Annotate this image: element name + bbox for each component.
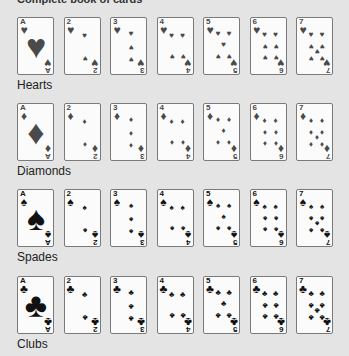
spade-icon: ♠ (114, 196, 120, 208)
spade-icon: ♠ (309, 214, 313, 222)
heart-icon: ♥ (91, 57, 98, 69)
spade-icon: ♠ (129, 227, 133, 235)
heart-icon: ♥ (227, 52, 232, 60)
card-5-of-diamonds: 55♦♦♦♦♦♦♦ (203, 103, 240, 161)
heart-icon: ♥ (227, 30, 232, 38)
diamond-icon: ♦ (21, 110, 27, 122)
heart-icon: ♥ (82, 32, 87, 40)
diamond-icon: ♦ (277, 143, 283, 155)
card-a-of-clubs: AA♣♣♣ (17, 276, 54, 334)
spade-icon: ♠ (169, 204, 173, 212)
spade-icon: ♠ (82, 204, 86, 212)
suit-label: Hearts (17, 78, 52, 92)
card-3-of-diamonds: 33♦♦♦♦♦ (110, 103, 147, 161)
card-4-of-hearts: 44♥♥♥♥♥♥ (157, 17, 194, 75)
spade-icon: ♠ (309, 203, 313, 211)
heart-icon: ♥ (82, 54, 87, 62)
spade-icon: ♠ (320, 214, 324, 222)
diamond-icon: ♦ (273, 128, 277, 136)
card-a-of-hearts: AA♥♥♥ (17, 17, 54, 75)
spade-icon: ♠ (169, 224, 173, 232)
card-7-of-hearts: 77♥♥♥♥♥♥♥♥♥ (296, 17, 333, 75)
diamond-icon: ♦ (324, 143, 330, 155)
diamond-icon: ♦ (27, 115, 44, 149)
club-icon: ♣ (299, 283, 307, 295)
heart-icon: ♥ (67, 24, 74, 36)
spade-icon: ♠ (324, 229, 330, 241)
club-icon: ♣ (113, 283, 121, 295)
spade-icon: ♠ (314, 219, 318, 227)
heart-icon: ♥ (216, 52, 221, 60)
heart-icon: ♥ (230, 57, 237, 69)
spade-icon: ♠ (231, 229, 237, 241)
heart-icon: ♥ (320, 31, 325, 39)
spade-icon: ♠ (27, 201, 45, 235)
club-icon: ♣ (128, 314, 133, 322)
diamond-icon: ♦ (300, 110, 306, 122)
suit-label: Clubs (17, 337, 48, 351)
heart-icon: ♥ (309, 54, 314, 62)
heart-icon: ♥ (129, 55, 134, 63)
spade-icon: ♠ (180, 204, 184, 212)
diamond-icon: ♦ (227, 116, 231, 124)
spade-icon: ♠ (129, 215, 133, 223)
card-2-of-hearts: 22♥♥♥♥ (64, 17, 101, 75)
heart-icon: ♥ (180, 32, 185, 40)
heart-icon: ♥ (314, 47, 319, 55)
club-icon: ♣ (215, 289, 220, 297)
heart-icon: ♥ (160, 24, 167, 36)
card-2-of-diamonds: 22♦♦♦♦ (64, 103, 101, 161)
card-6-of-diamonds: 66♦♦♦♦♦♦♦♦ (250, 103, 287, 161)
heart-icon: ♥ (273, 42, 278, 50)
diamond-icon: ♦ (320, 117, 324, 125)
club-icon: ♣ (308, 290, 313, 298)
heart-icon: ♥ (273, 53, 278, 61)
club-icon: ♣ (319, 301, 324, 309)
spade-icon: ♠ (227, 202, 231, 210)
card-6-of-clubs: 66♣♣♣♣♣♣♣♣ (250, 276, 287, 334)
club-icon: ♣ (319, 290, 324, 298)
spade-icon: ♠ (160, 196, 166, 208)
club-icon: ♣ (206, 283, 214, 295)
diamond-icon: ♦ (262, 139, 266, 147)
heart-icon: ♥ (253, 24, 260, 36)
heart-icon: ♥ (320, 42, 325, 50)
diamond-icon: ♦ (169, 138, 173, 146)
spade-icon: ♠ (221, 213, 225, 221)
card-3-of-spades: 33♠♠♠♠♠ (110, 189, 147, 247)
spade-icon: ♠ (262, 203, 266, 211)
club-icon: ♣ (314, 306, 319, 314)
club-icon: ♣ (25, 288, 47, 322)
diamond-icon: ♦ (309, 117, 313, 125)
club-icon: ♣ (180, 291, 185, 299)
spade-icon: ♠ (273, 203, 277, 211)
spade-icon: ♠ (227, 224, 231, 232)
heart-icon: ♥ (137, 57, 144, 69)
diamond-icon: ♦ (45, 143, 51, 155)
club-icon: ♣ (128, 302, 133, 310)
suit-label: Diamonds (17, 164, 71, 178)
diamond-icon: ♦ (184, 143, 190, 155)
card-3-of-hearts: 33♥♥♥♥♥ (110, 17, 147, 75)
diamond-icon: ♦ (262, 128, 266, 136)
spade-icon: ♠ (184, 229, 190, 241)
diamond-icon: ♦ (180, 118, 184, 126)
spade-icon: ♠ (207, 196, 213, 208)
diamond-icon: ♦ (129, 141, 133, 149)
heart-icon: ♥ (26, 29, 46, 63)
heart-icon: ♥ (320, 54, 325, 62)
diamond-icon: ♦ (129, 129, 133, 137)
spade-icon: ♠ (277, 229, 283, 241)
club-icon: ♣ (128, 289, 133, 297)
heart-icon: ♥ (129, 43, 134, 51)
diamond-icon: ♦ (129, 116, 133, 124)
spade-icon: ♠ (216, 202, 220, 210)
heart-icon: ♥ (169, 32, 174, 40)
card-4-of-spades: 44♠♠♠♠♠♠ (157, 189, 194, 247)
club-icon: ♣ (137, 316, 145, 328)
card-6-of-spades: 66♠♠♠♠♠♠♠♠ (250, 189, 287, 247)
card-2-of-spades: 22♠♠♠♠ (64, 189, 101, 247)
heart-icon: ♥ (323, 57, 330, 69)
club-icon: ♣ (221, 300, 226, 308)
diamond-icon: ♦ (320, 128, 324, 136)
